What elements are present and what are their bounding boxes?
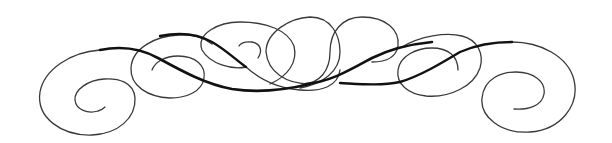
center-loop-left xyxy=(266,17,340,88)
flourish-divider-icon xyxy=(0,0,612,143)
left-spiral-outer xyxy=(40,50,135,135)
center-loop-right xyxy=(302,17,398,84)
right-spiral-outer xyxy=(482,42,575,132)
left-loop-3-outer xyxy=(201,22,295,84)
left-loop-3-hook xyxy=(239,42,260,58)
